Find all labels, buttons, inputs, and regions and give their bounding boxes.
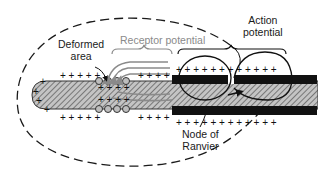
action-pointer <box>230 45 240 64</box>
action-potential-label: Action potential <box>243 14 283 38</box>
svg-text:+ + + + + + + + + + + +: + + + + + + + + + + + + <box>176 117 277 128</box>
myelin-sheath-bottom <box>172 106 317 115</box>
svg-text:+ + + + + + + + + + + +: + + + + + + + + + + + + <box>176 64 277 75</box>
svg-text:+ + + + +: + + + + + <box>60 112 100 123</box>
svg-text:+ + + +: + + + + <box>138 112 170 123</box>
axon-terminal <box>32 81 318 109</box>
svg-text:+ + + +: + + + + <box>98 94 130 105</box>
svg-text:+ + + + +: + + + + + <box>60 70 100 81</box>
svg-text:+ + + +: + + + + <box>138 70 170 81</box>
node-of-ranvier-label: Node of Ranvier <box>182 128 219 152</box>
pacinian-corpuscle-diagram: + + + + + + + + + + + + + + + + + + + + … <box>0 0 318 180</box>
receptor-potential-label: Receptor potential <box>120 34 205 46</box>
svg-text:+: + <box>40 76 46 87</box>
svg-text:+ + + +: + + + + <box>98 82 130 93</box>
svg-text:+: + <box>44 104 50 115</box>
myelin-sheath-top <box>172 75 317 84</box>
deformed-area-label: Deformed area <box>58 38 104 62</box>
receptor-brace <box>112 45 172 54</box>
svg-text:+: + <box>36 95 42 106</box>
